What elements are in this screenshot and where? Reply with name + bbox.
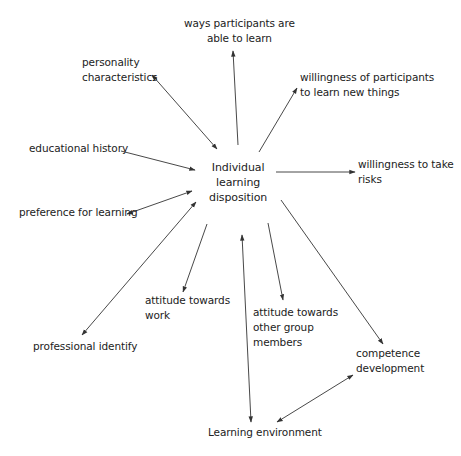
node-competence-development: competence development	[356, 346, 424, 376]
node-learning-environment: Learning environment	[208, 425, 322, 440]
node-willingness-learn-new-things: willingness of participants to learn new…	[300, 70, 434, 100]
node-ways-participants-learn: ways participants are able to learn	[184, 16, 295, 46]
node-attitude-towards-group-members: attitude towards other group members	[253, 305, 338, 350]
edge-center-attitude-group	[268, 223, 283, 300]
edge-center-willingness-new	[259, 88, 297, 152]
edge-educational-history-center	[121, 151, 195, 170]
edge-learning-environment-competence	[277, 375, 353, 422]
edge-center-ways	[233, 51, 238, 145]
diagram-canvas: Individual learning disposition ways par…	[0, 0, 461, 456]
edge-center-personality	[152, 75, 217, 149]
node-personality-characteristics: personality characteristics	[82, 55, 157, 85]
node-professional-identify: professional identify	[33, 339, 137, 354]
node-preference-for-learning: preference for learning	[19, 205, 137, 220]
center-node-individual-learning-disposition: Individual learning disposition	[209, 160, 267, 205]
node-attitude-towards-work: attitude towards work	[145, 293, 230, 323]
arrows-layer	[0, 0, 461, 456]
node-educational-history: educational history	[29, 141, 128, 156]
node-willingness-take-risks: willingness to take risks	[358, 157, 454, 187]
edge-center-attitude-work	[183, 224, 207, 292]
edge-center-learning-environment	[242, 235, 251, 422]
